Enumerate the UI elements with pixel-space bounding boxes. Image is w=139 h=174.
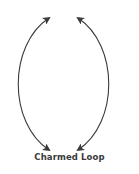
diagram-caption: Charmed Loop xyxy=(0,152,139,162)
charmed-loop-diagram: Charmed Loop xyxy=(0,0,139,174)
loop-arrows xyxy=(0,0,139,174)
right-double-arrow-icon xyxy=(78,18,109,150)
left-double-arrow-icon xyxy=(18,18,49,150)
